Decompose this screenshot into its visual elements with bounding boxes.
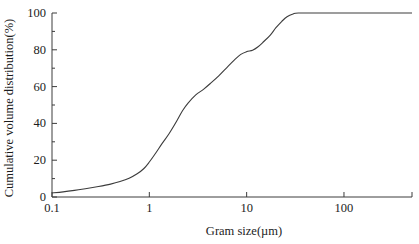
y-tick-label: 20 (34, 153, 47, 167)
y-tick-label: 60 (34, 80, 47, 94)
cumulative-distribution-chart: 0204060801000.1110100 (0, 0, 419, 244)
x-tick-label: 0.1 (44, 201, 60, 215)
y-axis-title: Cumulative volume distribution(%) (2, 19, 17, 197)
x-tick-label: 10 (240, 201, 253, 215)
distribution-curve (52, 13, 412, 193)
y-tick-label: 100 (27, 6, 46, 20)
x-axis-title: Gram size(µm) (206, 224, 282, 239)
x-tick-label: 100 (335, 201, 354, 215)
x-tick-label: 1 (146, 201, 152, 215)
figure: 0204060801000.1110100 Cumulative volume … (0, 0, 419, 244)
y-tick-label: 80 (34, 43, 47, 57)
y-tick-label: 40 (34, 116, 47, 130)
